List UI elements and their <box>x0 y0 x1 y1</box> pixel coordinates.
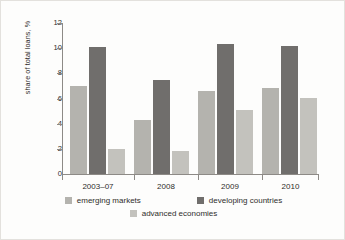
bar-emerging-markets-2008 <box>134 120 151 174</box>
legend-swatch-icon-advanced-economies <box>130 210 137 217</box>
bar-advanced-economies-2009 <box>236 110 253 174</box>
chart-figure: share of total loans, % 12 10 8 6 4 2 0 <box>0 0 345 240</box>
legend-swatch-icon-emerging-markets <box>65 197 72 204</box>
legend-label-developing-countries: developing countries <box>209 196 282 205</box>
x-tick-2 <box>198 175 199 180</box>
legend-item-emerging-markets: emerging markets <box>65 196 141 205</box>
bar-group-2003-07 <box>70 23 127 174</box>
legend-swatch-icon-developing-countries <box>197 197 204 204</box>
chart-legend: emerging markets developing countries ad… <box>1 196 345 218</box>
x-label-2009: 2009 <box>198 182 262 191</box>
bar-advanced-economies-2008 <box>172 151 189 174</box>
bar-group-2010 <box>262 23 319 174</box>
bar-emerging-markets-2003-07 <box>70 86 87 174</box>
legend-item-advanced-economies: advanced economies <box>130 209 218 218</box>
legend-item-developing-countries: developing countries <box>197 196 282 205</box>
bar-developing-countries-2010 <box>281 46 298 174</box>
bar-emerging-markets-2009 <box>198 91 215 174</box>
y-tick-label-0: 0 <box>40 170 62 178</box>
legend-label-advanced-economies: advanced economies <box>142 209 218 218</box>
x-label-2008: 2008 <box>134 182 198 191</box>
bar-emerging-markets-2010 <box>262 88 279 174</box>
plot-area <box>62 23 319 174</box>
bar-group-2009 <box>198 23 255 174</box>
bar-advanced-economies-2010 <box>300 98 317 174</box>
x-tick-left <box>62 175 63 180</box>
bar-developing-countries-2003-07 <box>89 47 106 174</box>
x-tick-right <box>318 175 319 180</box>
bar-advanced-economies-2003-07 <box>108 149 125 174</box>
x-tick-3 <box>262 175 263 180</box>
bar-group-2008 <box>134 23 191 174</box>
y-axis-title: share of total loans, % <box>23 0 32 128</box>
x-label-2003-07: 2003–07 <box>62 182 134 191</box>
x-label-2010: 2010 <box>262 182 319 191</box>
legend-label-emerging-markets: emerging markets <box>77 196 141 205</box>
x-tick-1 <box>134 175 135 180</box>
bar-developing-countries-2009 <box>217 44 234 174</box>
x-axis-line <box>62 174 319 175</box>
bar-developing-countries-2008 <box>153 80 170 174</box>
